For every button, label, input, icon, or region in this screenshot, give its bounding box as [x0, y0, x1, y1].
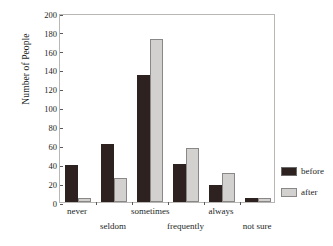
y-tick-label: 20 — [49, 181, 61, 190]
bar-after-frequently — [186, 148, 199, 202]
bar-before-never — [65, 165, 78, 202]
legend-swatch-before — [281, 167, 297, 176]
x-axis-label-always: always — [203, 206, 239, 216]
bar-after-sometimes — [150, 39, 163, 202]
bar-after-seldom — [114, 178, 127, 202]
y-tick-label: 40 — [49, 162, 61, 171]
y-tick-label: 120 — [44, 86, 60, 95]
x-axis-label-frequently: frequently — [167, 221, 203, 231]
y-tick-label: 160 — [44, 49, 60, 58]
legend-label-after: after — [301, 187, 317, 197]
y-tick-label: 80 — [49, 124, 61, 133]
legend-label-before: before — [301, 166, 324, 176]
legend-swatch-after — [281, 188, 297, 197]
bar-before-frequently — [173, 164, 186, 202]
bars-layer — [60, 15, 274, 202]
x-axis-label-seldom: seldom — [95, 221, 131, 231]
bar-after-never — [78, 198, 91, 202]
x-axis-labels: neverseldomsometimesfrequentlyalwaysnot … — [59, 205, 275, 245]
x-axis-label-sometimes: sometimes — [131, 206, 167, 216]
y-tick-label: 60 — [49, 143, 61, 152]
y-tick-label: 200 — [44, 11, 60, 20]
bar-group — [168, 15, 204, 202]
bar-group — [132, 15, 168, 202]
y-axis-title: Number of People — [21, 0, 31, 139]
plot-area: 200180160140120100806040200 — [59, 14, 275, 203]
legend-item-before[interactable]: before — [281, 166, 333, 176]
bar-before-not-sure — [245, 198, 258, 202]
bar-before-seldom — [101, 144, 114, 202]
bar-chart: Number of People 20018016014012010080604… — [0, 0, 333, 246]
bar-after-not-sure — [258, 198, 271, 202]
chart-legend: beforeafter — [281, 166, 333, 208]
bar-before-always — [209, 185, 222, 202]
bar-after-always — [222, 173, 235, 202]
x-axis-label-not-sure: not sure — [239, 221, 275, 231]
y-tick-label: 180 — [44, 30, 60, 39]
x-axis-label-never: never — [59, 206, 95, 216]
bar-group — [240, 15, 276, 202]
bar-group — [60, 15, 96, 202]
bar-before-sometimes — [137, 75, 150, 202]
bar-group — [96, 15, 132, 202]
legend-item-after[interactable]: after — [281, 187, 333, 197]
y-tick-label: 100 — [44, 105, 60, 114]
y-tick-label: 140 — [44, 67, 60, 76]
bar-group — [204, 15, 240, 202]
